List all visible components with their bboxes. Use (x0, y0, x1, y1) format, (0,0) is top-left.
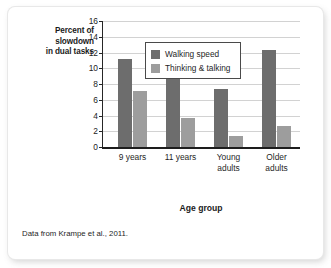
legend-swatch-icon-walking-speed (151, 50, 160, 59)
x-tick-label: Youngadults (206, 152, 252, 173)
bar-walking-speed-young-adults (214, 89, 228, 147)
x-tick-label-line: adults (206, 163, 252, 174)
gridline (102, 21, 300, 22)
y-tick-label: 2 (93, 126, 98, 136)
y-tick-mark (99, 147, 102, 148)
y-tick-mark (99, 100, 102, 101)
x-tick-label-line: 9 years (110, 152, 156, 163)
bar-chart: Percent ofslowdownin dual tasks 02468101… (8, 7, 323, 259)
figure-caption: Data from Krampe et al., 2011. (22, 229, 128, 238)
y-tick-label: 16 (89, 16, 98, 26)
chart-legend: Walking speed Thinking & talking (145, 42, 241, 79)
x-tick-label-line: adults (254, 163, 300, 174)
x-axis-title: Age group (102, 203, 300, 213)
bar-walking-speed-11-years (166, 75, 180, 147)
y-tick-mark (99, 37, 102, 38)
y-tick-mark (99, 53, 102, 54)
y-axis-title-line: slowdown (18, 37, 94, 48)
x-tick-label: 9 years (110, 152, 156, 163)
y-tick-label: 8 (93, 79, 98, 89)
legend-item-walking-speed: Walking speed (151, 47, 235, 61)
x-tick-label: 11 years (158, 152, 204, 163)
y-tick-label: 0 (93, 142, 98, 152)
x-tick-label-line: Older (254, 152, 300, 163)
plot-area: 0246810121416 9 years11 yearsYoungadults… (102, 21, 300, 147)
legend-label-walking-speed: Walking speed (165, 49, 219, 59)
y-tick-label: 12 (89, 48, 98, 58)
y-tick-label: 10 (89, 63, 98, 73)
y-tick-mark (99, 84, 102, 85)
bar-thinking-talking-older-adults (277, 126, 291, 147)
legend-swatch-icon-thinking-talking (151, 64, 160, 73)
bar-thinking-talking-young-adults (229, 136, 243, 147)
x-tick-label-line: 11 years (158, 152, 204, 163)
legend-label-thinking-talking: Thinking & talking (165, 63, 231, 73)
x-tick-label: Olderadults (254, 152, 300, 173)
figure-card: Percent ofslowdownin dual tasks 02468101… (8, 7, 323, 259)
y-tick-mark (99, 21, 102, 22)
y-axis-title-line: in dual tasks (18, 47, 94, 58)
bar-thinking-talking-11-years (181, 118, 195, 147)
bar-walking-speed-older-adults (262, 50, 276, 147)
y-tick-label: 6 (93, 95, 98, 105)
bar-thinking-talking-9-years (133, 91, 147, 147)
y-tick-label: 4 (93, 111, 98, 121)
y-tick-mark (99, 68, 102, 69)
y-axis-title: Percent ofslowdownin dual tasks (18, 26, 94, 58)
y-tick-label: 14 (89, 32, 98, 42)
x-axis-line (102, 147, 300, 149)
x-tick-label-line: Young (206, 152, 252, 163)
bar-walking-speed-9-years (118, 59, 132, 147)
y-axis-title-line: Percent of (18, 26, 94, 37)
y-axis-line (102, 21, 103, 147)
y-tick-mark (99, 116, 102, 117)
legend-item-thinking-talking: Thinking & talking (151, 61, 235, 75)
y-tick-mark (99, 131, 102, 132)
gridline (102, 37, 300, 38)
